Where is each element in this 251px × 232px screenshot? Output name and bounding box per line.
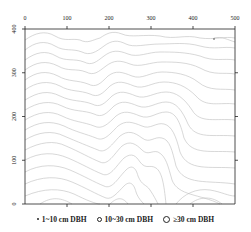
x-tick-labels: 0 100 200 300 400 500 — [24, 15, 240, 21]
x-tick: 300 — [147, 15, 156, 21]
legend-label: ≥30 cm DBH — [173, 215, 214, 224]
legend: 1~10 cm DBH 10~30 cm DBH ≥30 cm DBH — [0, 212, 251, 226]
large-ring-icon — [163, 216, 170, 223]
small-ring-icon — [97, 217, 102, 222]
y-tick: 200 — [11, 112, 17, 121]
y-tick: 300 — [11, 68, 17, 77]
legend-item-large: ≥30 cm DBH — [163, 215, 214, 224]
x-tick: 200 — [105, 15, 114, 21]
legend-label: 1~10 cm DBH — [42, 215, 87, 224]
tree-point — [213, 38, 215, 40]
x-tick: 500 — [231, 15, 240, 21]
x-tick: 0 — [24, 15, 27, 21]
x-tick: 100 — [63, 15, 72, 21]
legend-label: 10~30 cm DBH — [105, 215, 153, 224]
contour-map: 0 100 200 300 400 500 0 100 200 300 400 — [0, 0, 251, 212]
y-tick: 0 — [11, 203, 17, 206]
contour-lines — [25, 32, 235, 204]
y-tick-labels: 0 100 200 300 400 — [11, 25, 17, 206]
legend-item-small: 1~10 cm DBH — [37, 215, 87, 224]
axes — [22, 26, 238, 207]
y-tick: 400 — [11, 25, 17, 34]
y-tick: 100 — [11, 156, 17, 165]
legend-item-medium: 10~30 cm DBH — [97, 215, 153, 224]
small-dot-icon — [37, 218, 39, 220]
x-tick: 400 — [189, 15, 198, 21]
